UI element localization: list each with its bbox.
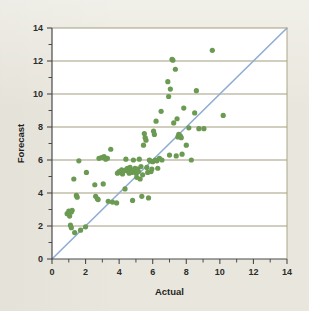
data-point	[131, 157, 136, 162]
data-point	[75, 195, 80, 200]
data-point	[159, 109, 164, 114]
x-tick-label-2: 2	[83, 267, 88, 277]
y-tick-label-6: 6	[38, 155, 43, 165]
data-point	[143, 138, 148, 143]
data-point	[114, 200, 119, 205]
data-point	[167, 152, 172, 157]
y-tick-label-2: 2	[38, 221, 43, 231]
data-point	[71, 176, 76, 181]
data-point	[140, 172, 145, 177]
data-point	[138, 164, 143, 169]
data-point	[144, 165, 149, 170]
data-point	[122, 186, 127, 191]
data-point	[130, 198, 135, 203]
y-tick-label-12: 12	[33, 56, 43, 66]
data-point	[189, 157, 194, 162]
data-point	[141, 143, 146, 148]
data-point	[170, 58, 175, 63]
data-point	[168, 86, 173, 91]
x-axis-tick-labels: 02468101214	[49, 267, 292, 277]
data-point	[174, 153, 179, 158]
data-point	[92, 182, 97, 187]
data-point	[136, 169, 141, 174]
data-point	[83, 224, 88, 229]
data-point	[192, 110, 197, 115]
x-tick-label-8: 8	[184, 267, 189, 277]
data-point	[96, 197, 101, 202]
x-axis-ticks	[52, 259, 287, 264]
x-tick-label-14: 14	[282, 267, 292, 277]
data-point	[149, 166, 154, 171]
data-point	[173, 67, 178, 72]
data-point	[139, 194, 144, 199]
y-tick-label-0: 0	[38, 254, 43, 264]
data-point	[166, 94, 171, 99]
data-point	[179, 152, 184, 157]
y-tick-label-8: 8	[38, 122, 43, 132]
y-axis-title: Forecast	[15, 123, 26, 163]
data-point	[152, 132, 157, 137]
data-point	[105, 156, 110, 161]
chart-figure: 02468101214 02468101214 Actual Forecast	[0, 0, 309, 311]
data-point	[123, 157, 128, 162]
data-point	[69, 225, 74, 230]
data-point	[181, 105, 186, 110]
data-point	[137, 157, 142, 162]
data-point	[155, 166, 160, 171]
data-point	[159, 157, 164, 162]
data-point	[179, 135, 184, 140]
data-point	[165, 79, 170, 84]
data-point	[78, 228, 83, 233]
y-tick-label-10: 10	[33, 89, 43, 99]
x-axis-title: Actual	[155, 286, 184, 297]
data-point	[186, 125, 191, 130]
data-point	[194, 88, 199, 93]
data-point	[210, 48, 215, 53]
x-tick-label-12: 12	[248, 267, 258, 277]
data-point	[221, 113, 226, 118]
x-tick-label-10: 10	[215, 267, 225, 277]
x-tick-label-4: 4	[117, 267, 122, 277]
data-point	[70, 208, 75, 213]
y-tick-label-14: 14	[33, 23, 43, 33]
x-tick-label-0: 0	[49, 267, 54, 277]
data-point	[84, 170, 89, 175]
y-tick-label-4: 4	[38, 188, 43, 198]
x-tick-label-6: 6	[150, 267, 155, 277]
data-point	[171, 120, 176, 125]
scatter-plot-svg: 02468101214 02468101214 Actual Forecast	[0, 0, 309, 311]
data-point	[153, 119, 158, 124]
data-point	[174, 116, 179, 121]
data-point	[101, 181, 106, 186]
data-point	[72, 230, 77, 235]
y-axis-ticks	[47, 28, 52, 259]
data-point	[184, 143, 189, 148]
y-axis-tick-labels: 02468101214	[33, 23, 43, 264]
data-point	[196, 126, 201, 131]
data-point	[146, 195, 151, 200]
data-point	[108, 147, 113, 152]
data-point	[76, 158, 81, 163]
data-point	[201, 126, 206, 131]
